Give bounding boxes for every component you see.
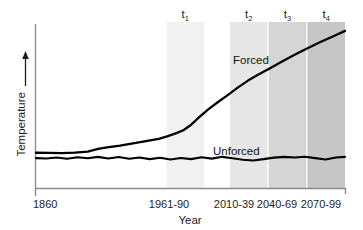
y-axis-title: Temperature [15,92,27,157]
unforced-series-label: Unforced [213,145,260,157]
period-band-t4 [308,22,345,188]
x-axis-title: Year [178,214,201,226]
x-tick-label-1961-90: 1961-90 [149,198,189,210]
x-tick-label-2070-99: 2070-99 [301,198,341,210]
period-band-t3 [269,22,306,188]
x-tick-label-2040-69: 2040-69 [257,198,297,210]
chart-svg: Temperature Forced Unforced t1 t2 t3 t4 … [0,0,363,230]
period-band-t1 [167,22,204,188]
x-tick-label-1860: 1860 [33,198,57,210]
x-tick-label-2010-39: 2010-39 [214,198,254,210]
period-band-t2 [230,22,267,188]
forced-series-label: Forced [233,54,269,66]
climate-projection-chart: Temperature Forced Unforced t1 t2 t3 t4 … [0,0,363,230]
period-shading-group [167,22,345,188]
